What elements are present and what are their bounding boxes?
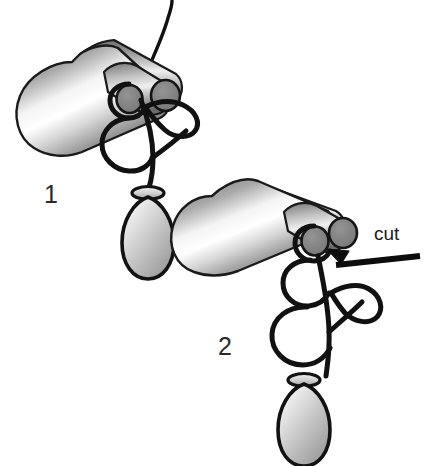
- cut-pointer-line: [336, 256, 420, 265]
- cut-annotation-label: cut: [374, 224, 399, 243]
- panel-2-group: [171, 179, 381, 466]
- cut-pointer-group: [327, 249, 420, 265]
- vesicle-panel-1: [122, 197, 174, 279]
- panel-1-number-label: 1: [44, 182, 58, 207]
- figure-canvas: [0, 0, 433, 466]
- disc-end-large-panel-2: [329, 218, 357, 248]
- disc-end-small-panel-2: [302, 227, 329, 256]
- disc-end-small-panel-1: [117, 85, 143, 113]
- panel-2-number-label: 2: [218, 334, 232, 359]
- figure-container: 1 2 cut: [0, 0, 433, 466]
- vesicle-panel-2: [278, 384, 330, 466]
- disc-end-large-panel-1: [151, 80, 180, 111]
